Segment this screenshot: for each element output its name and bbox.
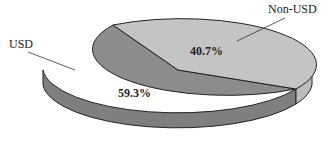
usd-percent: 59.3% [118, 86, 151, 101]
pie-chart [0, 0, 328, 147]
non-usd-percent: 40.7% [190, 44, 223, 59]
usd-label: USD [9, 37, 33, 52]
usd-leader-line [28, 52, 75, 70]
non-usd-label: Non-USD [268, 2, 317, 17]
